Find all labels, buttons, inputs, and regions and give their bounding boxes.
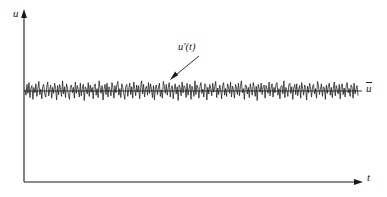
y-axis-label: u [13, 8, 19, 19]
fluctuation-signal-curve [25, 81, 358, 101]
turbulence-figure: u t u′(t) u [0, 0, 387, 197]
overbar-glyph [366, 82, 372, 83]
x-axis-label: t [367, 172, 370, 183]
annotation-arrowhead [170, 71, 178, 80]
mean-symbol: u [366, 82, 372, 94]
signal-annotation-label: u′(t) [178, 42, 195, 53]
x-axis-arrowhead [354, 179, 363, 185]
annotation-arrow-group [170, 56, 199, 80]
y-axis-arrowhead [21, 9, 27, 18]
plot-canvas [0, 0, 387, 197]
mean-value-label: u [366, 83, 372, 94]
annotation-arrow-line [174, 56, 199, 77]
